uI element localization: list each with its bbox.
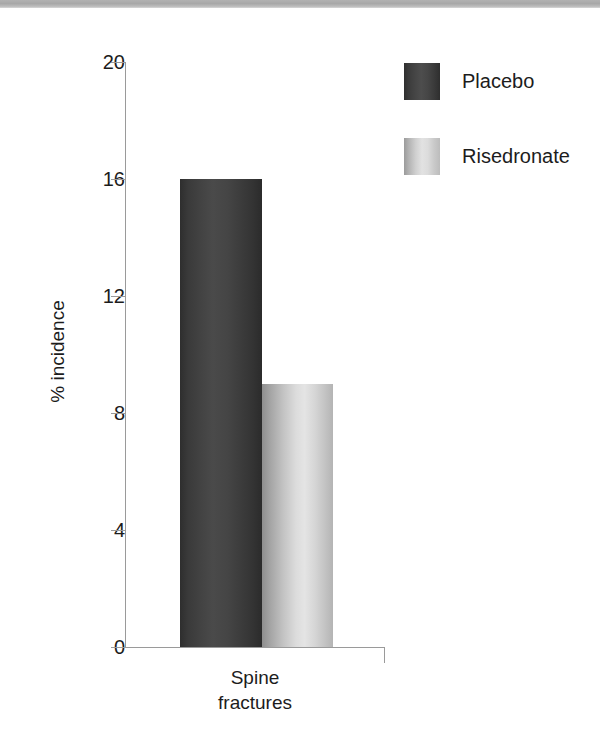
y-tick-mark-12	[111, 296, 125, 297]
y-tick-mark-20	[111, 62, 125, 63]
bar-placebo	[180, 179, 262, 647]
legend-swatch-placebo-icon	[404, 63, 440, 100]
y-tick-mark-8	[111, 413, 125, 414]
legend-label-risedronate: Risedronate	[462, 143, 570, 169]
x-axis-line	[125, 647, 384, 648]
legend-label-placebo: Placebo	[462, 68, 534, 94]
x-axis-end-tick	[384, 647, 385, 663]
y-tick-mark-0	[111, 647, 125, 648]
scan-edge-band	[0, 0, 600, 8]
bar-chart-figure: 20 16 12 8 4 0 % incidence Spine fractur…	[0, 0, 600, 743]
y-tick-mark-16	[111, 179, 125, 180]
chart-legend: Placebo Risedronate	[404, 63, 594, 213]
legend-item-risedronate: Risedronate	[404, 138, 594, 175]
legend-item-placebo: Placebo	[404, 63, 594, 100]
bar-risedronate	[262, 384, 333, 647]
y-axis-title: % incidence	[48, 272, 67, 432]
x-category-label-line1: Spine	[165, 665, 345, 690]
x-category-label-line2: fractures	[165, 690, 345, 715]
x-category-label: Spine fractures	[165, 665, 345, 715]
y-tick-mark-4	[111, 530, 125, 531]
bars-layer	[125, 62, 384, 647]
legend-swatch-risedronate-icon	[404, 138, 440, 175]
